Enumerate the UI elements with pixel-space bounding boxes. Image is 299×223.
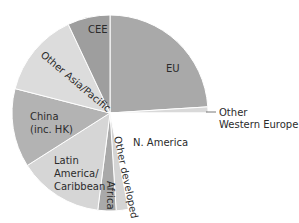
label-china-2: (inc. HK) <box>30 124 73 135</box>
label-other-western-europe: Other <box>219 107 248 118</box>
label-latin-america-2: America/ <box>54 168 99 179</box>
label-n-america: N. America <box>133 137 188 148</box>
label-cee: CEE <box>88 24 108 35</box>
label-other-western-europe-2: Western Europe <box>219 119 298 130</box>
label-latin-america: Latin <box>54 155 79 166</box>
label-latin-america-3: Caribbean <box>54 181 105 192</box>
label-africa: Africa <box>105 181 116 210</box>
label-eu: EU <box>166 63 180 74</box>
label-china: China <box>30 111 59 122</box>
pie-chart: EU Other Western Europe N. America Other… <box>0 0 299 223</box>
slice-eu <box>110 15 208 113</box>
